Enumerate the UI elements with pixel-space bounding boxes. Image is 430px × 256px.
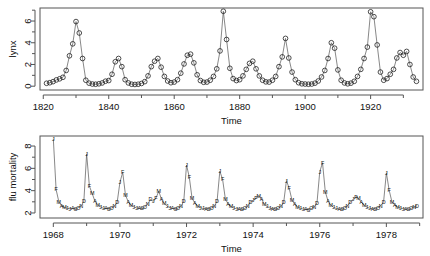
month-marker: J	[285, 178, 288, 184]
month-marker: D	[415, 203, 419, 209]
y-tick-label: 6	[22, 18, 33, 23]
x-tick-label: 1820	[33, 101, 54, 112]
month-marker: F	[54, 186, 58, 192]
x-tick-label: 1880	[229, 101, 250, 112]
month-marker: F	[321, 160, 325, 166]
lynx-x-axis-title: Time	[221, 115, 242, 126]
month-marker: J	[52, 136, 55, 142]
lynx-y-axis-title: lynx	[7, 40, 18, 57]
x-tick-label: 1860	[164, 101, 185, 112]
month-marker: F	[88, 183, 92, 189]
month-marker: F	[221, 176, 225, 182]
flu-y-axis-title: flu mortality	[7, 152, 18, 201]
month-marker: F	[121, 169, 125, 175]
month-marker: J	[85, 151, 88, 157]
flu-x-axis: 196819701972197419761978	[43, 223, 420, 240]
month-marker: F	[154, 195, 158, 201]
month-marker: M	[90, 190, 95, 196]
month-marker: D	[315, 200, 319, 206]
month-marker: F	[387, 187, 391, 193]
month-marker: M	[123, 192, 128, 198]
month-marker: J	[318, 169, 321, 175]
x-tick-label: 1840	[98, 101, 119, 112]
y-tick-label: 2	[23, 210, 34, 215]
y-tick-label: 4	[23, 40, 34, 45]
month-marker: M	[323, 189, 328, 195]
lynx-series	[44, 9, 419, 87]
month-marker: D	[82, 198, 86, 204]
month-marker: D	[382, 199, 386, 205]
month-marker: M	[157, 188, 162, 194]
panel-lynx: 0246 182018401860188019001920 lynx Time	[0, 0, 430, 128]
y-tick-label: 6	[23, 166, 34, 171]
month-marker: D	[115, 199, 119, 205]
y-tick-label: 2	[23, 62, 34, 67]
x-tick-label: 1978	[376, 229, 397, 240]
x-tick-label: 1900	[295, 101, 316, 112]
month-marker: D	[182, 198, 186, 204]
y-tick-label: 4	[23, 188, 34, 193]
month-marker: F	[188, 174, 192, 180]
flu-x-axis-title: Time	[221, 243, 242, 254]
x-tick-label: 1976	[309, 229, 330, 240]
month-marker: J	[119, 179, 122, 185]
month-marker: D	[282, 199, 286, 205]
lynx-y-axis: 0246	[22, 10, 35, 89]
month-marker: J	[218, 168, 221, 174]
x-tick-label: 1920	[360, 101, 381, 112]
month-marker: J	[185, 162, 188, 168]
lynx-x-axis: 182018401860188019001920	[33, 95, 404, 112]
flu-mortality-chart: 2468 196819701972197419761978 JFMAMJJASO…	[0, 128, 430, 256]
x-tick-label: 1968	[43, 229, 64, 240]
x-tick-label: 1970	[109, 229, 130, 240]
month-marker: D	[215, 198, 219, 204]
x-tick-label: 1972	[176, 229, 197, 240]
lynx-chart: 0246 182018401860188019001920 lynx Time	[0, 0, 430, 128]
figure-container: 0246 182018401860188019001920 lynx Time …	[0, 0, 430, 256]
y-tick-label: 0	[23, 84, 34, 89]
flu-series: JFMAMJJASONDJFMAMJJASONDJFMAMJJASONDJFMA…	[52, 136, 419, 213]
month-marker: F	[288, 185, 292, 191]
y-tick-label: 8	[22, 143, 33, 148]
month-marker: J	[385, 170, 388, 176]
flu-y-axis: 2468	[22, 143, 35, 215]
x-tick-label: 1974	[243, 229, 264, 240]
panel-flu-mortality: 2468 196819701972197419761978 JFMAMJJASO…	[0, 128, 430, 256]
